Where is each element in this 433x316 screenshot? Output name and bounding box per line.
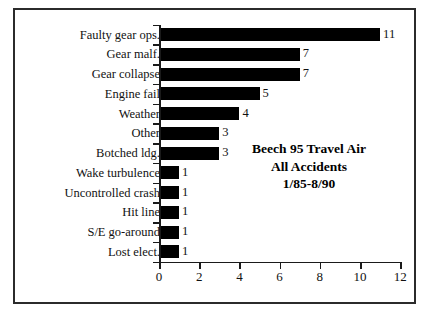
y-axis-tick bbox=[153, 242, 160, 244]
category-label: Wake turbulence bbox=[12, 167, 160, 180]
plot-area: Faulty gear ops. Gear malf. Gear collaps… bbox=[15, 10, 418, 306]
category-label: Faulty gear ops. bbox=[12, 29, 160, 42]
bar-value-label: 3 bbox=[222, 126, 228, 139]
bar bbox=[159, 226, 179, 239]
bar-value-label: 1 bbox=[182, 205, 188, 218]
annotation-line-3: 1/85-8/90 bbox=[210, 175, 408, 193]
bar-value-label: 7 bbox=[303, 67, 309, 80]
y-axis-tick bbox=[153, 183, 160, 185]
x-axis-tick-label: 4 bbox=[224, 270, 254, 284]
category-label: Gear collapse bbox=[12, 68, 160, 81]
bar bbox=[159, 127, 219, 140]
category-label: Weather bbox=[12, 108, 160, 121]
y-axis-tick bbox=[153, 123, 160, 125]
bar bbox=[159, 186, 179, 199]
x-axis-tick bbox=[360, 262, 362, 269]
bar-value-label: 7 bbox=[303, 47, 309, 60]
y-axis-tick bbox=[153, 84, 160, 86]
chart-frame: Faulty gear ops. Gear malf. Gear collaps… bbox=[13, 8, 416, 304]
bar bbox=[159, 68, 300, 81]
category-label: Engine fail bbox=[12, 88, 160, 101]
bar-value-label: 11 bbox=[383, 28, 395, 41]
x-axis-tick-label: 2 bbox=[184, 270, 214, 284]
x-axis-tick-label: 12 bbox=[385, 270, 415, 284]
bar bbox=[159, 87, 260, 100]
bar-value-label: 4 bbox=[242, 107, 248, 120]
category-label: S/E go-around bbox=[12, 226, 160, 239]
x-axis-tick bbox=[280, 262, 282, 269]
x-axis-tick-label: 8 bbox=[305, 270, 335, 284]
bar-value-label: 1 bbox=[182, 186, 188, 199]
y-axis-tick bbox=[153, 202, 160, 204]
x-axis-tick bbox=[199, 262, 201, 269]
bar bbox=[159, 206, 179, 219]
y-axis-tick bbox=[153, 64, 160, 66]
bar bbox=[159, 245, 179, 258]
y-axis-tick bbox=[153, 222, 160, 224]
category-label-column: Faulty gear ops. Gear malf. Gear collaps… bbox=[15, 10, 160, 250]
category-label: Lost elect. bbox=[12, 246, 160, 259]
category-label: Uncontrolled crash bbox=[12, 187, 160, 200]
category-label: Botched ldg. bbox=[12, 147, 160, 160]
x-axis-tick bbox=[239, 262, 241, 269]
category-label: Other bbox=[12, 127, 160, 140]
bar bbox=[159, 166, 179, 179]
bars-container: 11 7 7 5 4 3 3 1 1 1 1 1 bbox=[159, 10, 414, 250]
chart-annotation: Beech 95 Travel Air All Accidents 1/85-8… bbox=[210, 140, 408, 193]
y-axis-tick bbox=[153, 104, 160, 106]
x-axis-tick-label: 10 bbox=[345, 270, 375, 284]
x-axis-tick-label: 6 bbox=[265, 270, 295, 284]
y-axis-tick bbox=[153, 25, 160, 27]
bar bbox=[159, 48, 300, 61]
x-axis-tick-label: 0 bbox=[144, 270, 174, 284]
y-axis-tick bbox=[153, 44, 160, 46]
x-axis-tick bbox=[320, 262, 322, 269]
category-label: Hit line bbox=[12, 206, 160, 219]
annotation-line-1: Beech 95 Travel Air bbox=[210, 140, 408, 158]
bar-value-label: 1 bbox=[182, 166, 188, 179]
bar-value-label: 5 bbox=[263, 87, 269, 100]
y-axis-tick bbox=[153, 143, 160, 145]
bar-value-label: 1 bbox=[182, 225, 188, 238]
y-axis-tick bbox=[153, 163, 160, 165]
x-axis-tick bbox=[159, 262, 161, 269]
category-label: Gear malf. bbox=[12, 48, 160, 61]
bar-value-label: 1 bbox=[182, 245, 188, 258]
x-axis-tick bbox=[400, 262, 402, 269]
annotation-line-2: All Accidents bbox=[210, 158, 408, 176]
bar bbox=[159, 107, 239, 120]
bar bbox=[159, 28, 380, 41]
